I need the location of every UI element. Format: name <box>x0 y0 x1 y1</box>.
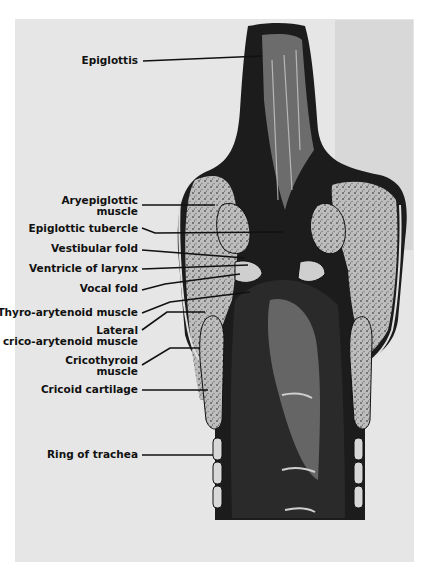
label-line: crico-arytenoid muscle <box>3 336 138 347</box>
label-cricoid-cartilage: Cricoid cartilage <box>41 384 138 395</box>
label-vestibular-fold: Vestibular fold <box>51 243 138 254</box>
label-epiglottis: Epiglottis <box>81 55 138 66</box>
label-epiglottic-tubercle: Epiglottic tubercle <box>29 223 138 234</box>
label-lateral-crico-arytenoid-muscle: Lateral crico-arytenoid muscle <box>3 325 138 347</box>
label-line: muscle <box>61 206 138 217</box>
label-aryepiglottic-muscle: Aryepiglottic muscle <box>61 195 138 217</box>
label-ventricle-of-larynx: Ventricle of larynx <box>29 263 138 274</box>
label-cricothyroid-muscle: Cricothyroid muscle <box>65 355 138 377</box>
label-line: muscle <box>65 366 138 377</box>
larynx-section-illustration <box>0 0 428 562</box>
label-thyro-arytenoid-muscle: Thyro-arytenoid muscle <box>0 307 138 318</box>
label-ring-of-trachea: Ring of trachea <box>47 449 138 460</box>
label-vocal-fold: Vocal fold <box>80 283 138 294</box>
